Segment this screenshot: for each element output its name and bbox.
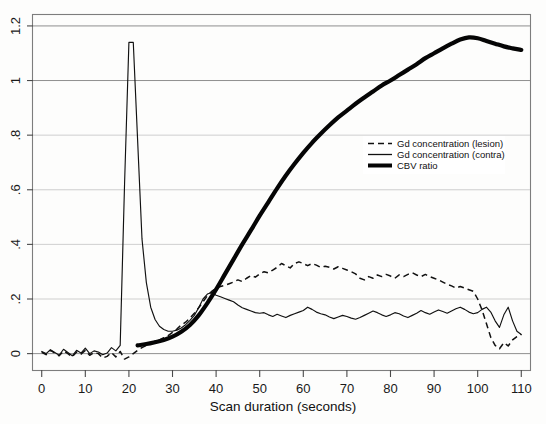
y-tick-label-1.2: 1.2 (8, 17, 23, 35)
x-tick-label-110: 110 (511, 381, 532, 396)
y-tick-label-.6: .6 (8, 184, 23, 195)
legend: Gd concentration (lesion) Gd concentrati… (363, 136, 505, 174)
x-axis-title: Scan duration (seconds) (210, 399, 356, 414)
y-tick-label-0: 0 (8, 350, 23, 357)
y-axis-ticks: 0.2.4.6.811.2 (8, 17, 33, 357)
x-tick-label-40: 40 (209, 381, 223, 396)
y-tick-label-.2: .2 (8, 294, 23, 305)
y-tick-label-.4: .4 (8, 239, 23, 250)
y-tick-label-1: 1 (8, 77, 23, 84)
x-axis-ticks: 0102030405060708090100110 (38, 370, 532, 396)
legend-label-cbv-ratio: CBV ratio (397, 160, 438, 171)
x-tick-label-70: 70 (340, 381, 354, 396)
plot-frame (33, 15, 531, 371)
legend-label-gd-contra: Gd concentration (contra) (397, 149, 505, 160)
x-tick-label-60: 60 (296, 381, 310, 396)
y-tick-label-.8: .8 (8, 130, 23, 141)
x-tick-label-0: 0 (38, 381, 45, 396)
line-chart: 0102030405060708090100110 0.2.4.6.811.2 … (0, 0, 546, 424)
x-tick-label-80: 80 (383, 381, 397, 396)
series-line-gd-lesion (42, 262, 522, 359)
legend-label-gd-lesion: Gd concentration (lesion) (397, 138, 503, 149)
gridlines (33, 26, 530, 354)
x-tick-label-90: 90 (427, 381, 441, 396)
x-tick-label-50: 50 (252, 381, 266, 396)
x-tick-label-20: 20 (122, 381, 136, 396)
x-tick-label-30: 30 (165, 381, 179, 396)
series-line-gd-contra (42, 42, 522, 355)
x-tick-label-100: 100 (467, 381, 489, 396)
x-tick-label-10: 10 (78, 381, 92, 396)
figure-container: 0102030405060708090100110 0.2.4.6.811.2 … (0, 0, 546, 424)
series-layer (42, 37, 522, 359)
